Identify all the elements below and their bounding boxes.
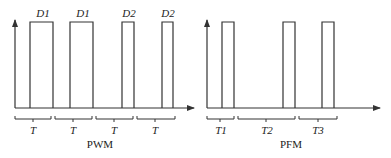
- pfm-caption: PFM: [280, 139, 302, 150]
- pfm-period-label-1: T1: [215, 125, 227, 136]
- pwm-pulse-label-2: D1: [76, 8, 89, 19]
- pwm-bracket-2: [55, 116, 92, 119]
- pfm-pulse-3: [322, 22, 334, 108]
- pwm-pulse-3: [122, 22, 134, 108]
- pwm-period-label-1: T: [30, 125, 36, 136]
- pwm-pulse-4: [162, 22, 173, 108]
- pfm-bracket-1: [207, 116, 234, 119]
- pwm-pulse-1: [30, 22, 53, 108]
- pwm-pulse-2: [70, 22, 93, 108]
- waveform-diagram: [0, 0, 391, 158]
- pwm-bracket-4: [137, 116, 175, 119]
- pwm-pulse-label-1: D1: [36, 8, 49, 19]
- pfm-bracket-3: [299, 116, 337, 119]
- pwm-pulse-label-4: D2: [161, 8, 174, 19]
- pfm-period-label-2: T2: [261, 125, 273, 136]
- pfm-pulse-2: [283, 22, 295, 108]
- pwm-caption: PWM: [87, 139, 113, 150]
- pwm-pulse-label-3: D2: [122, 8, 135, 19]
- pwm-bracket-3: [96, 116, 133, 119]
- pwm-period-label-3: T: [111, 125, 117, 136]
- pwm-period-label-2: T: [70, 125, 76, 136]
- pfm-bracket-2: [238, 116, 295, 119]
- pwm-period-label-4: T: [152, 125, 158, 136]
- pwm-bracket-1: [15, 116, 51, 119]
- pfm-pulse-1: [222, 22, 234, 108]
- pfm-period-label-3: T3: [312, 125, 324, 136]
